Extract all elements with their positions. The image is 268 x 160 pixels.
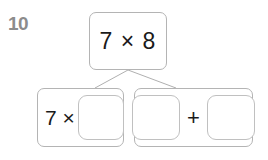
left-branch-answer-slot[interactable] — [78, 95, 124, 140]
plus-operator: + — [184, 107, 203, 129]
right-branch-answer-slot-1[interactable] — [132, 95, 180, 140]
left-branch-box: 7 × — [37, 88, 124, 147]
right-branch-box: + — [134, 88, 253, 147]
top-expression-text: 7 × 8 — [100, 30, 157, 53]
worksheet-question: 10 7 × 8 7 × + — [0, 0, 268, 160]
left-branch-prefix: 7 × — [45, 107, 75, 128]
top-expression-box: 7 × 8 — [89, 12, 167, 70]
question-number: 10 — [8, 14, 28, 33]
right-branch-answer-slot-2[interactable] — [207, 95, 255, 140]
